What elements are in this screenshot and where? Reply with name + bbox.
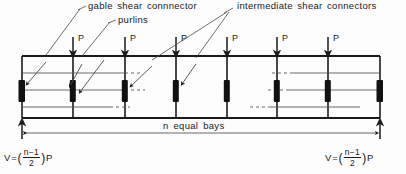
- leader-tick-purlins: [108, 20, 116, 23]
- bay-verticals: [73, 56, 328, 118]
- leader-purlins-arrow: [70, 64, 82, 86]
- leader-purlin-inner: [80, 60, 104, 92]
- reaction-close-paren: ): [362, 151, 366, 165]
- leader-gable: [46, 9, 80, 55]
- reaction-denominator: 2: [29, 158, 34, 167]
- gable-shear-connector-right: [377, 80, 384, 102]
- reaction-close-paren: ): [41, 151, 45, 165]
- shear-connectors: [19, 80, 384, 102]
- reaction-load-p: P: [367, 152, 374, 163]
- leader-purlins: [82, 22, 110, 56]
- intermediate-shear-connector: [70, 80, 76, 102]
- load-label-p: P: [78, 33, 84, 43]
- annotation-purlins: purlins: [118, 14, 148, 25]
- reaction-formula-left: V = ( n−1 2 ) P: [4, 148, 53, 167]
- reaction-denominator: 2: [350, 158, 355, 167]
- leader-intermediate-a2: [131, 66, 152, 86]
- load-label-p: P: [333, 33, 339, 43]
- intermediate-shear-connector: [274, 80, 280, 102]
- load-label-p: P: [130, 33, 136, 43]
- reaction-v-symbol: V: [325, 152, 332, 163]
- reaction-fraction: n−1 2: [23, 148, 40, 167]
- load-label-p: P: [181, 33, 187, 43]
- intermediate-shear-connector: [325, 80, 331, 102]
- diagram-canvas: gable shear connnector purlins intermedi…: [0, 0, 406, 174]
- reaction-numerator: n−1: [23, 148, 40, 158]
- reaction-formula-right: V = ( n−1 2 ) P: [325, 148, 374, 167]
- reaction-fraction: n−1 2: [344, 148, 361, 167]
- load-label-p: P: [282, 33, 288, 43]
- intermediate-shear-connector: [173, 80, 179, 102]
- reaction-equals: =: [332, 152, 338, 163]
- reaction-open-paren: (: [339, 151, 343, 165]
- annotation-intermediate-shear-connectors: intermediate shear connectors: [237, 0, 377, 11]
- gable-shear-connector-left: [19, 80, 26, 102]
- reaction-v-symbol: V: [4, 152, 11, 163]
- leader-intermediate-b: [196, 12, 229, 58]
- leader-intermediate-a: [152, 12, 227, 60]
- reaction-load-p: P: [46, 152, 53, 163]
- intermediate-shear-connector: [122, 80, 128, 102]
- dimension-label-n-equal-bays: n equal bays: [163, 120, 224, 131]
- leader-intermediate-b2: [182, 64, 196, 84]
- reaction-equals: =: [11, 152, 17, 163]
- reaction-numerator: n−1: [344, 148, 361, 158]
- load-label-p: P: [232, 33, 238, 43]
- intermediate-shear-connector: [224, 80, 230, 102]
- annotation-gable-shear-connector: gable shear connnector: [88, 0, 197, 11]
- leader-tick-gable: [78, 6, 86, 10]
- reaction-open-paren: (: [18, 151, 22, 165]
